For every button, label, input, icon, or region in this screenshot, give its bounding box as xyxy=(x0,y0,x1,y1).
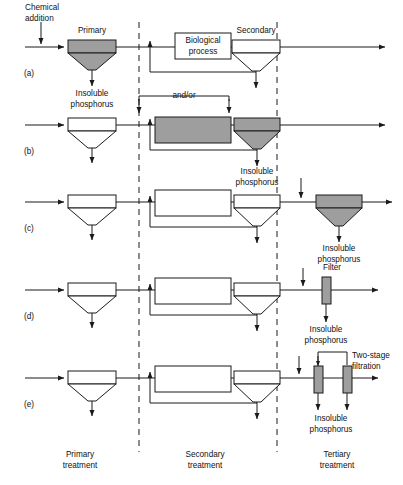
insoluble-phosphorus-label-line1-a: Insoluble xyxy=(76,89,109,98)
filter-label-d: Filter xyxy=(323,263,341,272)
secondary-label-a: Secondary xyxy=(236,26,276,35)
row-letter-e: (e) xyxy=(24,400,34,409)
secondary-clarifier-e xyxy=(234,371,280,402)
two-stage-bracket-e xyxy=(318,352,347,365)
chemical-addition-label-line1: Chemical xyxy=(25,3,59,12)
secondary-clarifier-a xyxy=(232,40,280,71)
filter-stage-2-e xyxy=(343,366,352,393)
process-flow-diagram: Chemical addition Primary Secondary Biol… xyxy=(0,0,403,485)
biological-reactor-c xyxy=(155,190,231,216)
insoluble-phosphorus-label-line1-d: Insoluble xyxy=(310,325,343,334)
row-letter-c: (c) xyxy=(24,224,34,233)
zone-label-tertiary-line2: treatment xyxy=(320,461,355,470)
insoluble-phosphorus-label-line2-a: phosphorus xyxy=(71,100,114,109)
insoluble-phosphorus-label-line1-e: Insoluble xyxy=(315,414,348,423)
filter-stage-1-e xyxy=(314,366,323,393)
two-stage-filtration-label-line1-e: Two-stage xyxy=(352,351,390,360)
tertiary-clarifier-c xyxy=(316,195,362,226)
biological-reactor-d xyxy=(155,278,231,304)
insoluble-phosphorus-label-line1-b: Insoluble xyxy=(241,167,274,176)
secondary-clarifier-b xyxy=(234,118,280,149)
primary-clarifier-b xyxy=(68,118,116,148)
biological-reactor-b xyxy=(155,117,231,143)
insoluble-phosphorus-label-line1-c: Insoluble xyxy=(323,244,356,253)
primary-clarifier-d xyxy=(68,283,116,313)
tertiary-filter-d xyxy=(322,277,331,304)
chemical-addition-label-line2: addition xyxy=(25,14,54,23)
zone-label-secondary-line2: treatment xyxy=(188,461,223,470)
row-letter-a: (a) xyxy=(24,69,34,78)
row-letter-b: (b) xyxy=(24,147,34,156)
zone-label-secondary-line1: Secondary xyxy=(185,450,225,459)
secondary-clarifier-c xyxy=(234,195,280,226)
insoluble-phosphorus-label-line2-e: phosphorus xyxy=(310,425,353,434)
row-letter-d: (d) xyxy=(24,312,34,321)
biological-reactor-e xyxy=(155,366,231,392)
zone-label-primary-line2: treatment xyxy=(63,461,98,470)
zone-label-primary-line1: Primary xyxy=(66,450,95,459)
flow-diagram-canvas: Chemical addition Primary Secondary Biol… xyxy=(0,0,403,485)
biological-process-label-line1-a: Biological xyxy=(185,36,220,45)
primary-clarifier-a xyxy=(68,40,116,70)
secondary-clarifier-d xyxy=(234,283,280,314)
biological-process-label-line2-a: process xyxy=(189,47,218,56)
insoluble-phosphorus-label-line2-d: phosphorus xyxy=(305,336,348,345)
primary-label-a: Primary xyxy=(78,26,107,35)
zone-label-tertiary-line1: Tertiary xyxy=(324,450,352,459)
primary-clarifier-e xyxy=(68,371,116,401)
two-stage-filtration-label-line2-e: filtration xyxy=(352,362,381,371)
primary-clarifier-c xyxy=(68,195,116,225)
row-e xyxy=(25,352,378,419)
and-or-label-b: and/or xyxy=(172,91,195,100)
insoluble-phosphorus-label-line2-b: phosphorus xyxy=(236,178,279,187)
row-d xyxy=(25,268,378,331)
row-c xyxy=(25,178,392,243)
